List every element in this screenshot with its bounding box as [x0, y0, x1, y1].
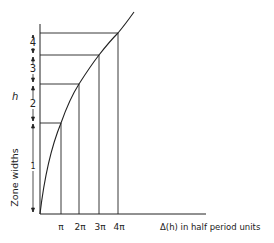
zone-label-4: 4 [29, 38, 37, 48]
x-tick-pi: π [55, 222, 67, 232]
zone-arrows [32, 35, 35, 212]
y-axis-symbol: h [12, 91, 18, 102]
phase-curve [40, 12, 134, 214]
x-tick-3pi: 3π [92, 222, 108, 232]
x-axis-label: Δ(h) in half period units [160, 222, 260, 232]
x-tick-2pi: 2π [72, 222, 88, 232]
x-tick-4pi: 4π [111, 222, 127, 232]
zone-label-1: 1 [29, 163, 37, 171]
zone-width-diagram [0, 0, 274, 243]
zone-label-3: 3 [29, 64, 37, 74]
zone-label-2: 2 [29, 99, 37, 109]
y-axis-label: Zone widths [9, 148, 20, 208]
